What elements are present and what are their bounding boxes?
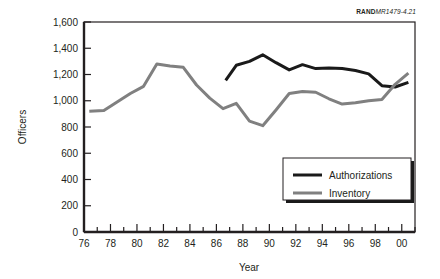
x-tick-label: 92	[290, 238, 302, 249]
x-tick-label: 94	[317, 238, 329, 249]
source-brand: RAND	[356, 8, 375, 15]
x-tick-label: 78	[105, 238, 117, 249]
y-tick-label: 1,400	[53, 43, 78, 54]
series-line-authorizations	[226, 55, 409, 87]
x-tick-label: 86	[211, 238, 223, 249]
x-tick-label: 96	[343, 238, 355, 249]
chart-figure: RANDMR1479-4.21 02004006008001,0001,2001…	[0, 0, 440, 279]
y-tick-label: 1,600	[53, 17, 78, 28]
y-tick-label: 400	[61, 174, 78, 185]
x-axis-title: Year	[239, 262, 260, 273]
line-chart: 02004006008001,0001,2001,4001,600 767880…	[0, 0, 440, 279]
x-tick-label: 98	[370, 238, 382, 249]
source-note: RANDMR1479-4.21	[356, 8, 416, 15]
x-tick-label: 82	[158, 238, 170, 249]
x-tick-label: 76	[78, 238, 90, 249]
y-tick-label: 0	[72, 227, 78, 238]
x-tick-label: 90	[264, 238, 276, 249]
x-tick-label: 88	[237, 238, 249, 249]
y-tick-label: 1,200	[53, 69, 78, 80]
y-axis-tick-labels: 02004006008001,0001,2001,4001,600	[53, 17, 78, 238]
y-tick-label: 600	[61, 148, 78, 159]
y-tick-label: 1,000	[53, 95, 78, 106]
y-tick-label: 800	[61, 122, 78, 133]
y-tick-label: 200	[61, 200, 78, 211]
data-series-group	[89, 55, 408, 126]
x-tick-label: 00	[396, 238, 408, 249]
source-code: MR1479-4.21	[376, 8, 416, 15]
legend-label-inventory: Inventory	[329, 188, 370, 199]
chart-legend: AuthorizationsInventory	[283, 158, 414, 203]
y-axis-title: Officers	[17, 110, 28, 144]
x-tick-label: 80	[131, 238, 143, 249]
x-tick-label: 84	[184, 238, 196, 249]
legend-label-authorizations: Authorizations	[329, 170, 392, 181]
x-axis-tick-labels: 76788082848688909294969800	[78, 238, 407, 249]
